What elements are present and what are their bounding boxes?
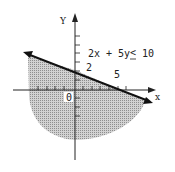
- inequality-label: 2x + 5y < 10: [88, 47, 154, 59]
- y-axis-label: Y: [59, 16, 67, 26]
- y-axis-arrow-icon: [72, 13, 78, 22]
- inequality-graph: Y x 0 2 5 2x + 5y < 10: [0, 0, 175, 172]
- inequality-lhs: 2x + 5y: [88, 48, 130, 59]
- y-intercept-label: 2: [86, 62, 92, 73]
- inequality-rhs: 10: [142, 48, 154, 59]
- line-arrow-right-icon: [143, 97, 153, 104]
- x-intercept-label: 5: [114, 69, 120, 80]
- x-axis-label: x: [155, 92, 160, 102]
- line-arrow-left-icon: [23, 51, 33, 58]
- inequality-operator: <: [130, 47, 136, 58]
- origin-label: 0: [66, 92, 72, 103]
